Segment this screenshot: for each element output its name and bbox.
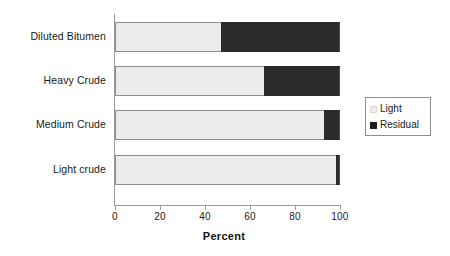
bar-segment-residual[interactable] (324, 110, 340, 140)
x-axis-line (115, 205, 341, 206)
bar-segment-light[interactable] (115, 110, 324, 140)
bar-row (115, 155, 340, 185)
bar-segment-residual[interactable] (264, 66, 341, 96)
x-tick-mark (250, 206, 251, 210)
bar-row (115, 110, 340, 140)
legend-label-residual: Residual (380, 117, 419, 133)
legend-item-residual[interactable]: Residual (368, 117, 430, 133)
light-swatch-icon (370, 106, 377, 113)
x-axis-title-text: Percent (203, 230, 245, 242)
x-axis-title: Percent (0, 230, 450, 242)
category-label: Light crude (53, 163, 106, 175)
bar-row (115, 22, 340, 52)
bar-segment-light[interactable] (115, 66, 264, 96)
x-tick-mark (160, 206, 161, 210)
bar-segment-light[interactable] (115, 22, 221, 52)
x-tick-label: 60 (244, 211, 256, 222)
bar-segment-light[interactable] (115, 155, 336, 185)
x-tick-mark (295, 206, 296, 210)
x-tick-mark (115, 206, 116, 210)
x-tick-label: 0 (112, 211, 118, 222)
residual-swatch-icon (370, 122, 377, 129)
x-tick-label: 40 (199, 211, 211, 222)
x-tick-label: 80 (289, 211, 301, 222)
chart-container: 020406080100 Diluted BitumenHeavy CrudeM… (0, 0, 450, 256)
bar-row (115, 66, 340, 96)
x-tick-label: 20 (154, 211, 166, 222)
chart-legend: Light Residual (365, 97, 431, 136)
x-tick-mark (340, 206, 341, 210)
bar-segment-residual[interactable] (336, 155, 341, 185)
bar-segment-residual[interactable] (221, 22, 340, 52)
legend-label-light: Light (380, 101, 402, 117)
category-label: Medium Crude (36, 118, 106, 130)
category-label: Heavy Crude (44, 74, 106, 86)
x-tick-mark (205, 206, 206, 210)
legend-item-light[interactable]: Light (368, 101, 430, 117)
category-label: Diluted Bitumen (30, 30, 106, 42)
x-tick-label: 100 (331, 211, 348, 222)
